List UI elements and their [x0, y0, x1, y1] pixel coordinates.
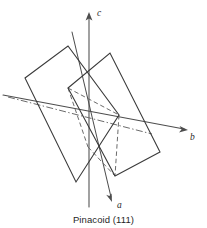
crystal-faces-group [25, 46, 160, 182]
crystal-axes-figure: c b a Pinacoid (111) [0, 0, 207, 228]
axis-group [3, 12, 188, 207]
b-axis-arrowhead [179, 126, 188, 132]
a-axis-label: a [117, 200, 122, 210]
a-axis-arrowhead [106, 194, 112, 202]
center-dashdot-line [8, 97, 152, 134]
hidden-line-group [8, 88, 152, 176]
figure-caption: Pinacoid (111) [0, 214, 207, 225]
b-axis-label: b [190, 132, 195, 142]
hidden-edge-3 [68, 88, 88, 147]
c-axis-label: c [97, 8, 102, 18]
crystal-diagram-svg: c b a [0, 0, 207, 228]
